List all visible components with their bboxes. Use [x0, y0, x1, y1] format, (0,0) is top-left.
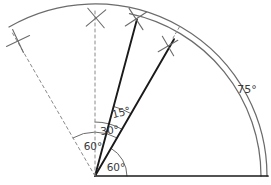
label-angle-75: 75°	[237, 83, 257, 96]
ray-ray-60	[95, 39, 174, 176]
label-angle-60a: 60°	[84, 140, 103, 152]
label-angle-30: 30°	[100, 123, 120, 137]
cross-stroke-2	[86, 8, 106, 28]
geometry-canvas: 15°30°60°60°75°	[0, 0, 271, 185]
angle-labels-layer: 15°30°60°60°75°	[84, 83, 257, 173]
cross-mark-cross-top-center	[86, 8, 106, 28]
tick-marks-layer	[173, 26, 180, 38]
tick-tick-dashed-up-right	[173, 26, 180, 38]
cross-stroke-2	[6, 29, 29, 52]
angle-construction-diagram: 15°30°60°60°75°	[0, 0, 271, 185]
label-angle-60b: 60°	[107, 161, 126, 173]
arc-outer-arc-main	[9, 4, 267, 176]
cross-mark-cross-left	[6, 29, 29, 52]
rays-layer	[12, 10, 268, 176]
ray-ray-120	[12, 32, 95, 176]
arcs-layer	[9, 4, 267, 176]
ray-ray-75	[95, 20, 137, 176]
